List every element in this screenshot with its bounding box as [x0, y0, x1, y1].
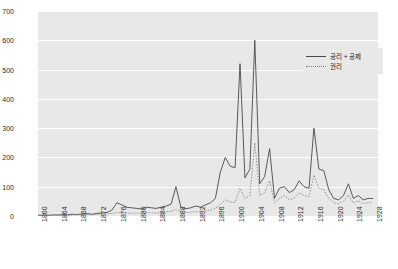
series-lines	[38, 11, 378, 216]
y-axis-tick-label: 100	[2, 184, 14, 191]
y-axis-tick-label: 300	[2, 125, 14, 132]
legend-line-dotted-icon	[306, 63, 326, 70]
y-axis-tick-label: 600	[2, 37, 14, 44]
legend-item[interactable]: 권리	[306, 61, 380, 71]
legend-label: 공리 + 공제	[330, 53, 361, 60]
y-axis-tick-label: 400	[2, 96, 14, 103]
y-axis-tick-label: 500	[2, 67, 14, 74]
legend: 공리 + 공제 권리	[303, 48, 383, 74]
legend-item[interactable]: 공리 + 공제	[306, 51, 380, 61]
gridline	[38, 216, 378, 217]
legend-line-solid-icon	[306, 53, 326, 60]
y-axis-tick-label: 0	[10, 213, 14, 220]
y-axis-tick-label: 200	[2, 154, 14, 161]
legend-label: 권리	[330, 63, 342, 70]
y-axis-tick-label: 700	[2, 8, 14, 15]
chart-container: 0100200300400500600700 18601864186818721…	[0, 0, 398, 269]
